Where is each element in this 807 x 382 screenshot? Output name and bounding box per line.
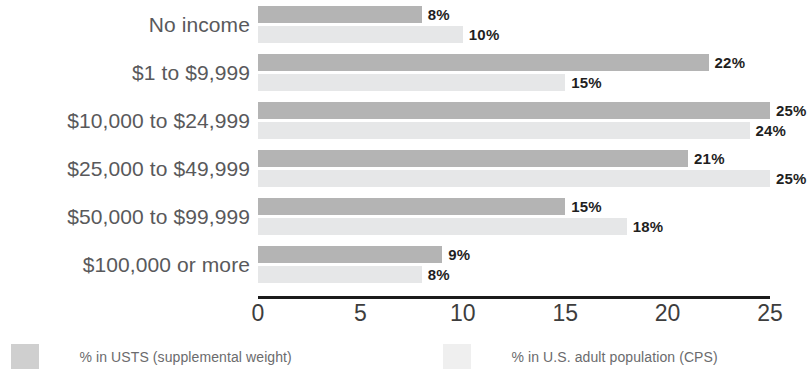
bar — [258, 170, 770, 187]
bar-with-value: 10% — [258, 26, 499, 43]
bar-with-value: 21% — [258, 150, 725, 167]
x-axis-tick-labels: 0 5 10 15 20 25 — [0, 300, 796, 330]
bar-value-label: 18% — [627, 218, 664, 235]
legend-item-cps: % in U.S. adult population (CPS) — [443, 344, 718, 374]
bar-value-label: 15% — [565, 74, 602, 91]
bar-with-value: 15% — [258, 74, 602, 91]
bar-value-label: 8% — [422, 266, 450, 283]
chart-category-row: $100,000 or more9%8% — [0, 242, 796, 290]
bar-value-label: 25% — [770, 102, 807, 119]
legend-label-usts: % in USTS (supplemental weight) — [43, 349, 291, 365]
bar-with-value: 15% — [258, 198, 602, 215]
category-label: $100,000 or more — [0, 250, 250, 280]
bar-value-label: 8% — [422, 6, 450, 23]
bar — [258, 150, 688, 167]
bar-value-label: 9% — [442, 246, 470, 263]
bar-value-label: 10% — [463, 26, 500, 43]
chart-category-row: No income8%10% — [0, 2, 796, 50]
bar — [258, 122, 750, 139]
chart-category-row: $10,000 to $24,99925%24% — [0, 98, 796, 146]
bar-with-value: 24% — [258, 122, 786, 139]
bar — [258, 26, 463, 43]
bar-with-value: 8% — [258, 266, 450, 283]
bar-value-label: 21% — [688, 150, 725, 167]
category-label: No income — [0, 10, 250, 40]
x-tick-0: 0 — [228, 300, 288, 327]
category-label: $1 to $9,999 — [0, 58, 250, 88]
bar-with-value: 8% — [258, 6, 450, 23]
bar-with-value: 25% — [258, 170, 807, 187]
bar — [258, 74, 565, 91]
bar — [258, 6, 422, 23]
x-tick-3: 15 — [535, 300, 595, 327]
bar — [258, 198, 565, 215]
bar — [258, 246, 442, 263]
legend-label-cps: % in U.S. adult population (CPS) — [475, 349, 717, 365]
plot-area: No income8%10%$1 to $9,99922%15%$10,000 … — [0, 0, 796, 300]
bar-with-value: 22% — [258, 54, 745, 71]
x-axis-line — [258, 296, 770, 299]
x-tick-1: 5 — [330, 300, 390, 327]
category-label: $25,000 to $49,999 — [0, 154, 250, 184]
x-tick-4: 20 — [638, 300, 698, 327]
bar-value-label: 15% — [565, 198, 602, 215]
x-tick-5: 25 — [740, 300, 800, 327]
bar-with-value: 18% — [258, 218, 663, 235]
chart-category-row: $1 to $9,99922%15% — [0, 50, 796, 98]
legend-swatch-cps-icon — [443, 344, 471, 369]
chart-legend: % in USTS (supplemental weight) % in U.S… — [0, 344, 796, 382]
bar-value-label: 25% — [770, 170, 807, 187]
chart-category-row: $25,000 to $49,99921%25% — [0, 146, 796, 194]
legend-item-usts: % in USTS (supplemental weight) — [11, 344, 292, 374]
bar-with-value: 25% — [258, 102, 807, 119]
bar — [258, 266, 422, 283]
bar — [258, 54, 709, 71]
legend-swatch-usts-icon — [11, 344, 39, 369]
bar-with-value: 9% — [258, 246, 470, 263]
chart-category-row: $50,000 to $99,99915%18% — [0, 194, 796, 242]
bar-value-label: 24% — [750, 122, 787, 139]
category-label: $50,000 to $99,999 — [0, 202, 250, 232]
bar — [258, 218, 627, 235]
x-tick-2: 10 — [433, 300, 493, 327]
bar-value-label: 22% — [709, 54, 746, 71]
category-label: $10,000 to $24,999 — [0, 106, 250, 136]
bar — [258, 102, 770, 119]
